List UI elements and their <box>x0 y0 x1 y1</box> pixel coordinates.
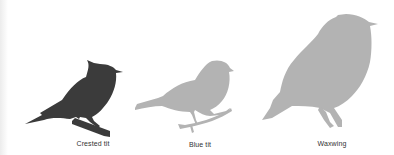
waxwing-silhouette-icon <box>262 14 378 128</box>
crested-tit-silhouette-icon <box>25 60 123 137</box>
label-crested-tit: Crested tit <box>77 140 110 147</box>
label-blue-tit: Blue tit <box>189 141 211 148</box>
blue-tit-silhouette-icon <box>135 60 234 133</box>
label-waxwing: Waxwing <box>318 140 347 147</box>
bird-silhouettes <box>0 0 394 155</box>
